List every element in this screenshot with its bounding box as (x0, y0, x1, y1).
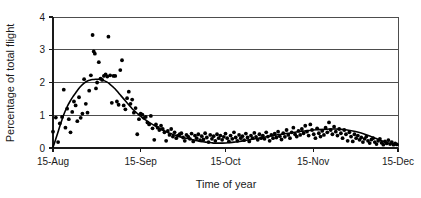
data-point (213, 139, 217, 143)
data-point (349, 135, 353, 139)
data-point (225, 136, 229, 140)
data-point (137, 117, 141, 121)
data-point (212, 134, 216, 138)
data-point (149, 114, 153, 118)
x-axis-tick-labels: 15-Aug15-Sep15-Oct15-Nov15-Dec (37, 156, 414, 167)
data-point (205, 136, 209, 140)
data-point (75, 119, 79, 123)
data-point (339, 131, 343, 135)
data-point (288, 136, 292, 140)
y-tick-label: 4 (39, 12, 45, 23)
data-point (127, 90, 131, 94)
data-point (70, 110, 74, 114)
data-point (268, 139, 272, 143)
data-point (332, 125, 336, 129)
data-point (82, 77, 86, 81)
data-point (95, 81, 99, 85)
data-point (54, 116, 58, 120)
data-point (356, 134, 360, 138)
data-point (246, 136, 250, 140)
data-point (341, 136, 345, 140)
y-tick-label: 0 (39, 143, 45, 154)
data-point (179, 131, 183, 135)
data-point (300, 127, 304, 131)
data-point (134, 106, 138, 110)
data-point (276, 130, 280, 134)
data-point (307, 134, 311, 138)
data-point (264, 130, 268, 134)
data-point (190, 132, 194, 136)
data-point (275, 136, 279, 140)
data-point (110, 101, 114, 105)
data-point (130, 98, 134, 102)
data-point (183, 139, 187, 143)
x-tick-label: 15-Sep (125, 156, 158, 167)
data-point (62, 88, 66, 92)
data-point (359, 136, 363, 140)
x-tick-label: 15-Nov (297, 156, 329, 167)
data-point (298, 133, 302, 137)
data-point (74, 104, 78, 108)
y-tick-label: 1 (39, 110, 45, 121)
data-point (222, 135, 226, 139)
data-point (381, 143, 385, 147)
data-point (368, 141, 372, 145)
data-point (97, 60, 101, 64)
data-point (118, 68, 122, 72)
data-point (285, 128, 289, 132)
data-point (291, 126, 295, 130)
data-point (327, 121, 331, 125)
data-point (72, 100, 76, 104)
data-point (241, 134, 245, 138)
data-point (244, 132, 248, 136)
x-axis-title: Time of year (196, 178, 257, 190)
data-point (77, 95, 81, 99)
data-point (81, 112, 85, 116)
data-point (120, 58, 124, 62)
y-axis-title: Percentage of total flight (4, 24, 16, 143)
data-point (319, 135, 323, 139)
data-point (91, 33, 95, 37)
data-point (258, 132, 262, 136)
data-point (271, 136, 275, 140)
data-point (151, 126, 155, 130)
data-point (51, 130, 55, 134)
data-point (107, 35, 111, 39)
gridlines-group (53, 17, 398, 148)
data-point (202, 138, 206, 142)
data-point (94, 86, 98, 90)
data-point (283, 135, 287, 139)
data-point (232, 130, 236, 134)
data-point (234, 136, 238, 140)
data-point (314, 136, 318, 140)
data-point (361, 140, 365, 144)
data-point (89, 73, 93, 77)
data-point (115, 100, 119, 104)
data-point (86, 111, 90, 115)
data-point (169, 127, 173, 131)
data-point (252, 131, 256, 135)
data-point (353, 132, 357, 136)
x-tick-label: 15-Aug (37, 156, 69, 167)
data-point (229, 134, 233, 138)
data-point (330, 132, 334, 136)
data-point (93, 52, 97, 56)
data-point (200, 134, 204, 138)
data-point (159, 124, 163, 128)
data-point (84, 102, 88, 106)
data-point (325, 130, 329, 134)
data-point (303, 124, 307, 128)
data-point (152, 138, 156, 142)
data-point (351, 140, 355, 144)
data-point (125, 96, 129, 100)
y-tick-label: 2 (39, 77, 45, 88)
y-tick-label: 3 (39, 44, 45, 55)
y-axis-tick-labels: 01234 (39, 12, 45, 154)
data-point (79, 116, 83, 120)
data-point (108, 73, 112, 77)
data-point (196, 132, 200, 136)
data-point (346, 139, 350, 143)
data-point (386, 138, 390, 142)
data-point (64, 126, 68, 130)
data-point (312, 132, 316, 136)
